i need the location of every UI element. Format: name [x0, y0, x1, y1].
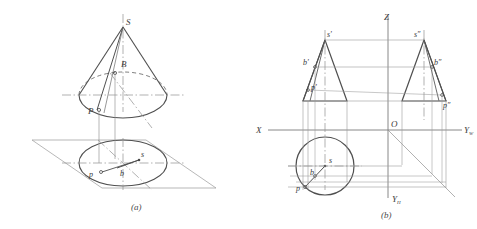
label-top-p: p	[295, 184, 300, 193]
cone-generatrix-SP	[97, 27, 123, 110]
figure-root: S B P p b s (a)	[0, 0, 477, 229]
cone-oblique-centerline	[110, 73, 152, 128]
projector-p-front-to-side	[308, 90, 442, 95]
cone-right-slant	[123, 27, 167, 95]
axis-label-yh-subscript: H	[396, 200, 401, 205]
figure-b-group: X Z O YW YH s' b' p' s″ b″ p″ s b p (b)	[255, 12, 474, 220]
label-front-p-prime: p'	[310, 83, 317, 92]
cone-left-slant	[79, 27, 123, 95]
caption-figure-a: (a)	[131, 202, 142, 212]
axis-label-yw: YW	[464, 125, 474, 136]
axis-label-yh: YH	[392, 194, 401, 205]
technical-drawing-svg: S B P p b s (a)	[0, 0, 477, 229]
side-view-generatrix-inner	[424, 40, 439, 101]
label-front-apex-s-prime: s'	[327, 30, 332, 39]
label-point-B: B	[121, 59, 127, 69]
label-side-apex-s-dprime: s″	[414, 30, 421, 39]
figure-a-group: S B P p b s (a)	[32, 14, 216, 212]
label-base-p: p	[88, 170, 93, 179]
label-top-s: s	[329, 156, 332, 165]
label-point-P: P	[87, 106, 94, 116]
label-side-b-dprime: b″	[434, 58, 442, 67]
label-apex-S: S	[126, 17, 131, 27]
axis-label-x: X	[255, 125, 262, 135]
label-front-b-prime: b'	[303, 58, 309, 67]
axis-label-origin: O	[391, 119, 398, 129]
axis-label-z: Z	[384, 12, 390, 22]
label-side-p-dprime: p″	[442, 101, 451, 110]
side-view-generatrix	[424, 40, 446, 101]
label-top-b: b	[310, 168, 314, 177]
axis-label-yw-subscript: W	[469, 131, 474, 136]
cone-generatrix-extension	[104, 27, 123, 113]
base-plane-point-s	[138, 159, 141, 162]
label-base-b: b	[120, 169, 124, 178]
caption-figure-b: (b)	[381, 210, 392, 220]
label-base-s: s	[141, 150, 144, 159]
